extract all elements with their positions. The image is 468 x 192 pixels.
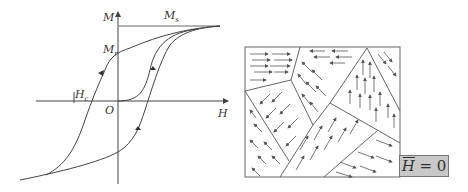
hysteresis-plot: [20, 12, 228, 184]
arrow-up-icon: [135, 126, 141, 130]
h-axis-label: H: [218, 108, 228, 119]
m-axis-label: M: [103, 12, 114, 23]
figure-graphics: [0, 0, 468, 192]
remanence-label: Mr: [103, 44, 118, 58]
figure: M Ms Mr Hc O H H = 0: [0, 0, 468, 192]
zero-field-label: H = 0: [399, 155, 449, 177]
initial-curve: [118, 29, 198, 101]
lower-branch: [20, 26, 220, 180]
coercivity-label: Hc: [75, 89, 89, 103]
saturation-label: Ms: [164, 10, 179, 24]
arrow-down-icon: [98, 70, 104, 76]
origin-label: O: [105, 105, 114, 116]
domain-diagram: [245, 47, 400, 177]
field-vector-symbol: H: [402, 157, 415, 175]
field-value: = 0: [415, 157, 447, 175]
